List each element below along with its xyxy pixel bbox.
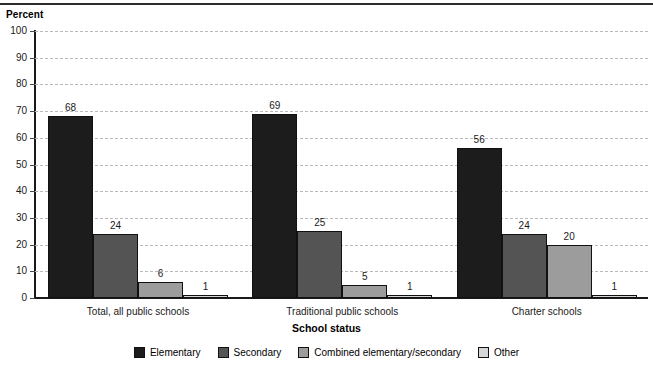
legend-item[interactable]: Combined elementary/secondary xyxy=(298,347,461,358)
y-tick-label-60: 60 xyxy=(1,132,27,143)
gridline-100 xyxy=(35,31,648,32)
y-tick-label-50: 50 xyxy=(1,159,27,170)
plot-area: 0102030405060708090100682461692551562420… xyxy=(35,31,648,298)
gridline-60 xyxy=(35,138,648,139)
x-axis-title: School status xyxy=(0,322,653,334)
chart-legend: ElementarySecondaryCombined elementary/s… xyxy=(0,347,653,358)
bar xyxy=(342,285,387,298)
legend-swatch-icon xyxy=(134,347,145,358)
legend-swatch-icon xyxy=(298,347,309,358)
y-tick-label-80: 80 xyxy=(1,78,27,89)
bar xyxy=(387,295,432,298)
bar-value-label: 1 xyxy=(611,281,617,292)
bar-value-label: 20 xyxy=(564,231,575,242)
y-tick-10 xyxy=(30,271,35,272)
bar-value-label: 68 xyxy=(65,102,76,113)
bar xyxy=(457,148,502,298)
bar xyxy=(297,231,342,298)
y-tick-80 xyxy=(30,84,35,85)
bar-value-label: 56 xyxy=(474,134,485,145)
bar xyxy=(48,116,93,298)
gridline-90 xyxy=(35,58,648,59)
y-tick-label-70: 70 xyxy=(1,105,27,116)
gridline-50 xyxy=(35,165,648,166)
legend-swatch-icon xyxy=(218,347,229,358)
y-tick-label-10: 10 xyxy=(1,265,27,276)
bar xyxy=(183,295,228,298)
bar-value-label: 1 xyxy=(203,281,209,292)
gridline-70 xyxy=(35,111,648,112)
legend-item[interactable]: Other xyxy=(478,347,519,358)
bar xyxy=(592,295,637,298)
y-tick-label-90: 90 xyxy=(1,52,27,63)
y-tick-0 xyxy=(30,298,35,299)
bar-value-label: 69 xyxy=(269,100,280,111)
bar-value-label: 24 xyxy=(519,220,530,231)
gridline-80 xyxy=(35,84,648,85)
bar xyxy=(502,234,547,298)
group-label: Total, all public schools xyxy=(87,306,189,317)
y-tick-60 xyxy=(30,138,35,139)
legend-label: Secondary xyxy=(234,347,282,358)
bar-value-label: 1 xyxy=(407,281,413,292)
bar-value-label: 5 xyxy=(362,271,368,282)
y-tick-label-20: 20 xyxy=(1,239,27,250)
y-tick-50 xyxy=(30,165,35,166)
bar xyxy=(138,282,183,298)
bar xyxy=(93,234,138,298)
legend-item[interactable]: Secondary xyxy=(218,347,282,358)
bar-chart: Percent 01020304050607080901006824616925… xyxy=(0,0,653,368)
legend-label: Elementary xyxy=(150,347,201,358)
gridline-40 xyxy=(35,191,648,192)
y-tick-label-0: 0 xyxy=(1,292,27,303)
bar-value-label: 6 xyxy=(158,268,164,279)
legend-label: Combined elementary/secondary xyxy=(314,347,461,358)
y-tick-label-30: 30 xyxy=(1,212,27,223)
legend-label: Other xyxy=(494,347,519,358)
group-label: Traditional public schools xyxy=(286,306,398,317)
bar-value-label: 24 xyxy=(110,220,121,231)
group-label: Charter schools xyxy=(512,306,582,317)
bar xyxy=(547,245,592,298)
y-tick-90 xyxy=(30,58,35,59)
y-tick-40 xyxy=(30,191,35,192)
y-tick-label-40: 40 xyxy=(1,185,27,196)
y-tick-70 xyxy=(30,111,35,112)
y-tick-100 xyxy=(30,31,35,32)
bar-value-label: 25 xyxy=(314,217,325,228)
bar xyxy=(252,114,297,298)
y-tick-20 xyxy=(30,245,35,246)
gridline-30 xyxy=(35,218,648,219)
legend-swatch-icon xyxy=(478,347,489,358)
top-divider-rule xyxy=(0,3,653,5)
y-tick-label-100: 100 xyxy=(1,25,27,36)
legend-item[interactable]: Elementary xyxy=(134,347,201,358)
y-tick-30 xyxy=(30,218,35,219)
y-axis-title: Percent xyxy=(6,9,43,20)
